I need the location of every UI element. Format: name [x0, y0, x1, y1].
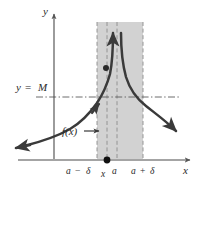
threshold-label-y: y	[15, 81, 21, 93]
tick-label-a-left: a	[66, 166, 71, 176]
function-label: f(x)	[62, 125, 78, 138]
tick-label-plus-sign: +	[140, 166, 145, 176]
infinite-limit-diagram: f(x) y = M y x a − δ x a a + δ	[0, 0, 207, 245]
tick-label-a-right: a	[131, 166, 136, 176]
threshold-label-equals: =	[25, 81, 31, 93]
threshold-label-m: M	[37, 81, 48, 93]
tick-label-a: a	[112, 166, 117, 176]
tick-label-delta-left: δ	[86, 166, 91, 176]
tick-label-minus-sign: −	[75, 166, 80, 176]
tick-label-delta-right: δ	[150, 166, 155, 176]
figure-container: f(x) y = M y x a − δ x a a + δ	[0, 0, 207, 245]
point-on-curve-f-of-x	[103, 65, 109, 71]
y-axis-label: y	[42, 5, 48, 17]
tick-label-x: x	[100, 169, 106, 179]
x-axis-label: x	[182, 164, 188, 176]
point-x-on-axis	[104, 157, 111, 164]
